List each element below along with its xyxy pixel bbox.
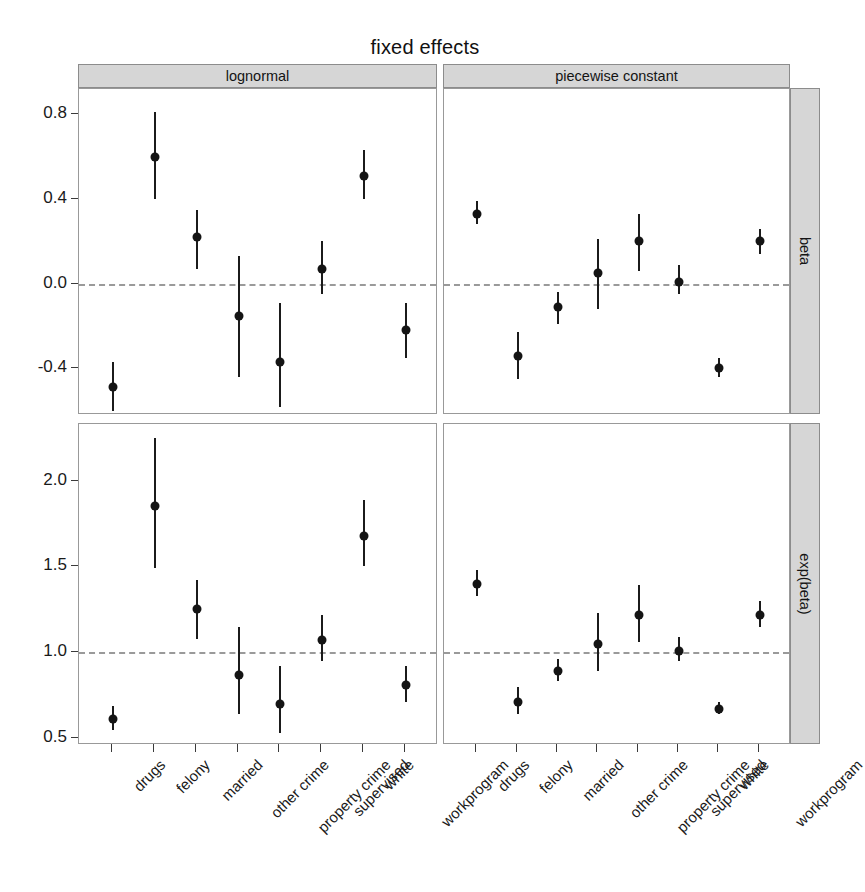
x-axis-tick [153,744,154,752]
row-strip-exp-beta: exp(beta) [790,423,820,744]
x-axis-tick [758,744,759,752]
data-point [234,311,243,320]
x-axis-tick [677,744,678,752]
y-axis-tick [71,480,78,481]
data-point [192,605,201,614]
x-axis-tick [195,744,196,752]
data-point [109,715,118,724]
chart-title: fixed effects [0,36,850,59]
reference-line [79,652,436,654]
y-axis-tick [71,565,78,566]
data-point [318,636,327,645]
column-strip-label: lognormal [226,68,290,84]
data-point [151,502,160,511]
x-axis-tick [237,744,238,752]
data-point [359,531,368,540]
column-strip-label: piecewise constant [555,68,678,84]
data-point [513,698,522,707]
data-point [675,277,684,286]
data-point [234,670,243,679]
data-point [473,209,482,218]
data-point [594,269,603,278]
reference-line [444,284,789,286]
x-axis-tick-label: drugs [130,756,169,795]
x-axis-tick-label: other crime [267,756,332,821]
x-axis-tick [637,744,638,752]
x-axis-tick-label: felony [173,756,213,796]
column-strip-lognormal: lognormal [78,64,437,88]
data-point [318,264,327,273]
data-point [276,358,285,367]
y-axis-tick [71,367,78,368]
row-strip-label: exp(beta) [797,553,813,614]
y-axis-tick-label: 0.4 [43,188,67,208]
y-axis-tick [71,198,78,199]
y-axis-tick [71,651,78,652]
x-axis-tick [404,744,405,752]
x-axis-tick [111,744,112,752]
x-axis-tick [516,744,517,752]
data-point [401,326,410,335]
panel-expbeta-lognormal [78,423,437,744]
data-point [513,351,522,360]
data-point [634,237,643,246]
data-point [359,171,368,180]
data-point [276,699,285,708]
x-axis-tick [362,744,363,752]
x-axis-tick-label: other crime [626,756,691,821]
data-point [109,383,118,392]
data-point [473,579,482,588]
data-point [553,667,562,676]
x-axis-tick [278,744,279,752]
x-axis-tick-label: married [579,756,627,804]
y-axis-tick-label: 0.0 [43,273,67,293]
data-point [675,646,684,655]
panel-beta-piecewise-constant [443,88,790,414]
x-axis-tick-label: felony [535,756,575,796]
y-axis-tick [71,737,78,738]
panel-beta-lognormal [78,88,437,414]
data-point [151,152,160,161]
column-strip-piecewise-constant: piecewise constant [443,64,790,88]
data-point [715,704,724,713]
data-point [594,639,603,648]
data-point [192,233,201,242]
x-axis-tick [556,744,557,752]
x-axis-tick [717,744,718,752]
x-axis-tick-label: workprogram [437,756,511,830]
data-point [553,303,562,312]
x-axis-tick [596,744,597,752]
x-axis-tick-label: married [218,756,266,804]
y-axis-tick-label: 2.0 [43,470,67,490]
x-axis-tick [320,744,321,752]
y-axis-tick-label: 0.5 [43,727,67,747]
y-axis-tick-label: 1.5 [43,555,67,575]
y-axis-tick-label: -0.4 [38,357,67,377]
y-axis-tick [71,283,78,284]
data-point [755,610,764,619]
reference-line [79,284,436,286]
data-point [401,680,410,689]
y-axis-tick [71,113,78,114]
panel-expbeta-piecewise-constant [443,423,790,744]
x-axis-tick-label: workprogram [791,756,865,830]
y-axis-tick-label: 1.0 [43,641,67,661]
y-axis-tick-label: 0.8 [43,103,67,123]
data-point [634,610,643,619]
x-axis-tick [475,744,476,752]
data-point [715,364,724,373]
row-strip-beta: beta [790,88,820,414]
error-bar [279,303,281,407]
reference-line [444,652,789,654]
data-point [755,237,764,246]
row-strip-label: beta [797,237,813,265]
